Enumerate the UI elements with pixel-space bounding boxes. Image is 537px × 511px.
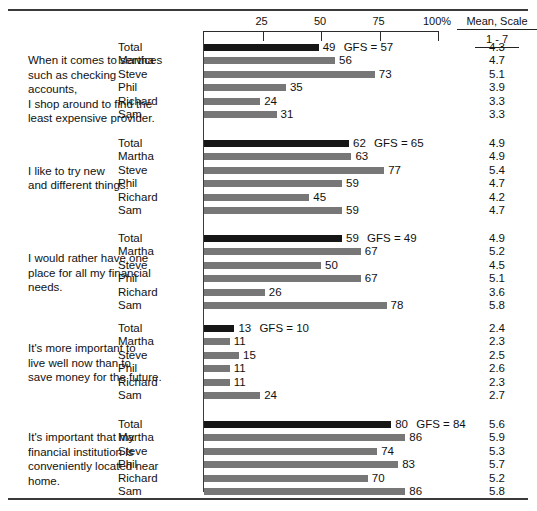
- bar-total: [204, 140, 349, 147]
- row-label-steve: Steve: [118, 68, 164, 81]
- chart-row: Sam785.8: [0, 299, 536, 312]
- bar-value-steve: 73: [379, 68, 392, 81]
- bar-value-richard: 26: [269, 286, 282, 299]
- axis-tick-labels: 255075100%: [0, 15, 536, 28]
- axis-tick-50: [321, 32, 322, 41]
- row-label-sam: Sam: [118, 299, 164, 312]
- mean-value-sam: 4.7: [489, 204, 505, 217]
- chart-row: Total59GFS = 494.9: [0, 232, 536, 245]
- chart-row: Richard263.6: [0, 286, 536, 299]
- gfs-value: GFS = 65: [374, 137, 424, 150]
- row-label-steve: Steve: [118, 445, 164, 458]
- chart-row: Sam242.7: [0, 389, 536, 402]
- row-label-martha: Martha: [118, 245, 164, 258]
- statement-group-2: I like to try new and different things.T…: [0, 137, 536, 217]
- bar-value-total: 59: [346, 232, 359, 245]
- chart-row: Phil835.7: [0, 458, 536, 471]
- chart-row: Richard454.2: [0, 191, 536, 204]
- mean-value-richard: 2.3: [489, 376, 505, 389]
- chart-row: Martha634.9: [0, 150, 536, 163]
- bar-value-steve: 74: [381, 445, 394, 458]
- mean-value-steve: 4.5: [489, 259, 505, 272]
- bar-value-martha: 56: [339, 54, 352, 67]
- bar-sam: [204, 111, 277, 118]
- bar-value-steve: 50: [325, 259, 338, 272]
- bar-richard: [204, 289, 265, 296]
- gfs-value: GFS = 57: [344, 41, 394, 54]
- chart-row: Richard243.3: [0, 95, 536, 108]
- chart-row: Total49GFS = 574.3: [0, 41, 536, 54]
- bar-total: [204, 421, 391, 428]
- row-label-total: Total: [118, 322, 164, 335]
- chart-row: Steve735.1: [0, 68, 536, 81]
- row-label-total: Total: [118, 41, 164, 54]
- chart-row: Phil594.7: [0, 177, 536, 190]
- bar-phil: [204, 365, 230, 372]
- mean-value-total: 4.9: [489, 232, 505, 245]
- statement-group-1: When it comes to services such as checki…: [0, 41, 536, 121]
- mean-value-martha: 4.7: [489, 54, 505, 67]
- mean-value-martha: 4.9: [489, 150, 505, 163]
- mean-value-sam: 5.8: [489, 299, 505, 312]
- bar-value-sam: 31: [281, 108, 294, 121]
- bar-value-phil: 67: [365, 272, 378, 285]
- chart-row: Sam313.3: [0, 108, 536, 121]
- axis-scale-box: [203, 31, 439, 41]
- chart-row: Total80GFS = 845.6: [0, 418, 536, 431]
- horizontal-rule-top: [8, 9, 528, 11]
- bar-steve: [204, 448, 377, 455]
- row-label-martha: Martha: [118, 150, 164, 163]
- mean-value-steve: 5.3: [489, 445, 505, 458]
- mean-value-richard: 3.6: [489, 286, 505, 299]
- mean-value-phil: 5.7: [489, 458, 505, 471]
- row-label-martha: Martha: [118, 335, 164, 348]
- chart-row: Martha675.2: [0, 245, 536, 258]
- mean-value-richard: 4.2: [489, 191, 505, 204]
- bar-martha: [204, 248, 361, 255]
- chart-row: Martha865.9: [0, 431, 536, 444]
- mean-value-total: 5.6: [489, 418, 505, 431]
- bar-sam: [204, 302, 387, 309]
- axis-tick-label-100: 100%: [423, 15, 451, 28]
- bar-martha: [204, 434, 405, 441]
- bar-martha: [204, 57, 335, 64]
- chart-row: Martha564.7: [0, 54, 536, 67]
- bar-total: [204, 325, 234, 332]
- bar-steve: [204, 71, 375, 78]
- row-label-phil: Phil: [118, 458, 164, 471]
- bar-value-richard: 24: [264, 95, 277, 108]
- bar-value-total: 62: [353, 137, 366, 150]
- bar-value-martha: 86: [409, 431, 422, 444]
- chart-row: Steve152.5: [0, 349, 536, 362]
- mean-value-total: 4.3: [489, 41, 505, 54]
- row-label-sam: Sam: [118, 108, 164, 121]
- row-label-phil: Phil: [118, 81, 164, 94]
- row-label-phil: Phil: [118, 272, 164, 285]
- bar-richard: [204, 475, 368, 482]
- row-label-richard: Richard: [118, 95, 164, 108]
- bar-phil: [204, 461, 398, 468]
- axis-tick-75: [380, 32, 381, 41]
- gfs-value: GFS = 84: [416, 418, 466, 431]
- bar-value-phil: 35: [290, 81, 303, 94]
- chart-row: Sam594.7: [0, 204, 536, 217]
- bar-phil: [204, 180, 342, 187]
- statement-group-3: I would rather have one place for all my…: [0, 232, 536, 312]
- row-label-steve: Steve: [118, 259, 164, 272]
- chart-row: Steve775.4: [0, 164, 536, 177]
- mean-value-total: 2.4: [489, 322, 505, 335]
- axis-tick-label-25: 25: [255, 15, 267, 28]
- row-label-richard: Richard: [118, 191, 164, 204]
- mean-value-sam: 5.8: [489, 485, 505, 498]
- bar-martha: [204, 153, 351, 160]
- row-label-richard: Richard: [118, 376, 164, 389]
- bar-value-total: 80: [395, 418, 408, 431]
- row-label-steve: Steve: [118, 349, 164, 362]
- chart-row: Sam865.8: [0, 485, 536, 498]
- axis-tick-label-50: 50: [314, 15, 326, 28]
- gfs-value: GFS = 10: [259, 322, 309, 335]
- mean-value-richard: 3.3: [489, 95, 505, 108]
- bar-phil: [204, 275, 361, 282]
- row-label-martha: Martha: [118, 431, 164, 444]
- axis-tick-25: [263, 32, 264, 41]
